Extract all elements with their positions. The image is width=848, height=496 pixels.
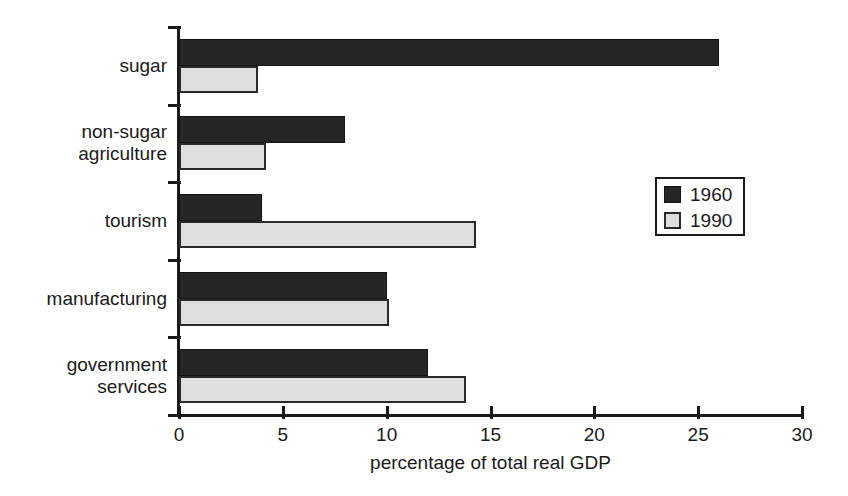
bar-1990: [179, 376, 466, 403]
legend-entry-1990: 1990: [664, 211, 732, 230]
legend-swatch-1990-icon: [664, 212, 681, 229]
bar-1990: [179, 66, 258, 93]
x-axis-tick-label: 25: [688, 424, 709, 446]
bar-1960: [179, 39, 719, 66]
category-label: non-sugar agriculture: [5, 121, 167, 165]
x-axis-title: percentage of total real GDP: [179, 452, 802, 474]
bar-1990: [179, 143, 266, 170]
bar-1990: [179, 221, 476, 248]
x-axis-tick-label: 15: [480, 424, 501, 446]
bar-1960: [179, 116, 345, 143]
legend-entry-1960: 1960: [664, 185, 732, 204]
x-axis-tick-label: 5: [278, 424, 289, 446]
legend-label-1990: 1990: [690, 211, 732, 230]
x-axis-tick-label: 0: [174, 424, 185, 446]
bar-chart: sugarnon-sugar agriculturetourismmanufac…: [0, 0, 848, 496]
bar-1960: [179, 349, 428, 376]
bar-1960: [179, 272, 387, 299]
x-axis-tick-label: 20: [584, 424, 605, 446]
category-label: government services: [5, 354, 167, 398]
legend: 1960 1990: [655, 177, 745, 236]
category-label: sugar: [5, 55, 167, 77]
bar-1960: [179, 194, 262, 221]
category-label: manufacturing: [5, 288, 167, 310]
legend-label-1960: 1960: [690, 185, 732, 204]
category-label: tourism: [5, 210, 167, 232]
legend-swatch-1960-icon: [664, 186, 681, 203]
x-axis-tick-label: 10: [376, 424, 397, 446]
x-axis-tick-label: 30: [791, 424, 812, 446]
bar-1990: [179, 299, 389, 326]
